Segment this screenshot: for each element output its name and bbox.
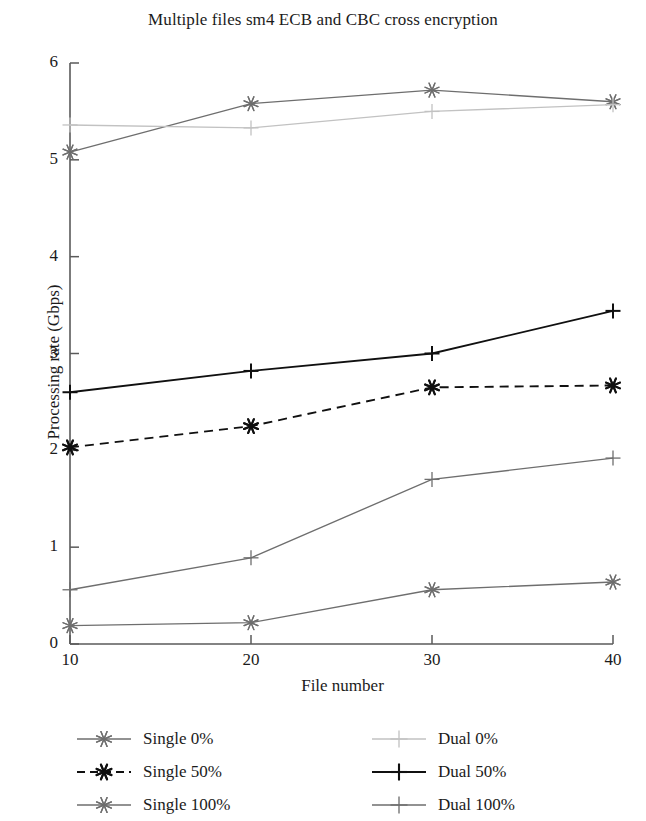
asterisk-marker — [425, 380, 439, 394]
legend-entry[interactable]: Dual 50% — [370, 755, 515, 788]
legend-sample-plus-icon — [370, 728, 428, 750]
legend-label: Single 50% — [133, 762, 222, 782]
x-tick-label: 10 — [50, 650, 90, 670]
series-single-50 — [63, 379, 620, 455]
legend-column: Dual 0%Dual 50%Dual 100% — [370, 722, 515, 821]
legend-entry[interactable]: Dual 100% — [370, 788, 515, 821]
legend-sample-plus-icon — [370, 761, 428, 783]
series-line — [70, 582, 613, 626]
legend-label: Single 0% — [133, 729, 213, 749]
legend-column: Single 0%Single 50%Single 100% — [75, 722, 230, 821]
x-tick-label: 20 — [231, 650, 271, 670]
series-line — [70, 105, 613, 128]
plus-marker — [425, 346, 440, 361]
series-line — [70, 458, 613, 590]
plot-area: Processing rate (Gbps) File number 01234… — [0, 0, 646, 700]
legend-label: Single 100% — [133, 795, 230, 815]
plus-marker — [391, 796, 408, 813]
legend-sample-asterisk-icon — [75, 761, 133, 783]
legend-entry[interactable]: Single 0% — [75, 722, 230, 755]
plus-marker — [63, 385, 78, 400]
legend-entry[interactable]: Dual 0% — [370, 722, 515, 755]
plus-marker — [244, 550, 259, 565]
legend-label: Dual 0% — [428, 729, 498, 749]
plot-svg — [0, 0, 646, 700]
plus-marker — [606, 451, 621, 466]
legend-label: Dual 50% — [428, 762, 506, 782]
series-single-100 — [63, 575, 620, 632]
y-tick-label: 2 — [32, 439, 58, 459]
legend-label: Dual 100% — [428, 795, 515, 815]
y-tick-label: 3 — [32, 343, 58, 363]
x-tick-label: 40 — [593, 650, 633, 670]
legend-sample-asterisk-icon — [75, 794, 133, 816]
series-dual-50 — [63, 303, 621, 399]
series-line — [70, 385, 613, 447]
plus-marker — [425, 104, 440, 119]
legend-sample-asterisk-icon — [75, 728, 133, 750]
y-tick-label: 5 — [32, 149, 58, 169]
legend-sample-plus-icon — [370, 794, 428, 816]
x-axis-ticks — [70, 635, 613, 644]
y-tick-label: 4 — [32, 246, 58, 266]
series-dual-100 — [63, 451, 621, 598]
plus-marker — [63, 117, 78, 132]
y-tick-label: 1 — [32, 536, 58, 556]
x-tick-label: 30 — [412, 650, 452, 670]
asterisk-marker — [244, 419, 258, 433]
series-single-0 — [63, 83, 620, 159]
legend-entry[interactable]: Single 50% — [75, 755, 230, 788]
series-dual-0 — [63, 97, 621, 135]
plus-marker — [391, 730, 408, 747]
axis-spines — [70, 63, 613, 644]
plus-marker — [63, 582, 78, 597]
series-line — [70, 311, 613, 392]
plus-marker — [391, 763, 408, 780]
plus-marker — [606, 303, 621, 318]
plus-marker — [244, 363, 259, 378]
x-axis-label: File number — [70, 676, 615, 696]
plus-marker — [425, 472, 440, 487]
y-tick-label: 6 — [32, 52, 58, 72]
plus-marker — [244, 120, 259, 135]
legend-entry[interactable]: Single 100% — [75, 788, 230, 821]
chart-figure: Multiple files sm4 ECB and CBC cross enc… — [0, 0, 646, 821]
series-line — [70, 90, 613, 152]
chart-legend: Single 0%Single 50%Single 100%Dual 0%Dua… — [0, 722, 646, 821]
